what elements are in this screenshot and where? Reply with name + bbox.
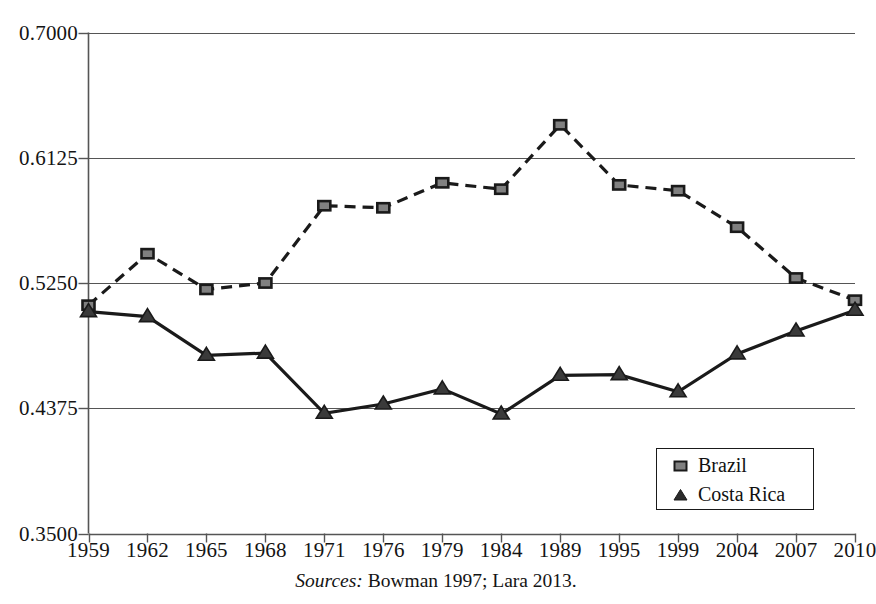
x-tick-label: 1995 [598,538,641,563]
x-tick-label: 1968 [244,538,287,563]
data-point-triangle [257,345,273,358]
x-tick-label: 1979 [421,538,464,563]
data-point-square [731,223,743,232]
y-tick-label: 0.7000 [19,20,78,45]
source-text: Bowman 1997; Lara 2013. [368,570,577,591]
x-tick-label: 2010 [834,538,876,563]
data-point-square [318,201,330,210]
data-point-triangle [434,381,450,394]
y-axis-tick-labels: 0.70000.61250.52500.43750.3500 [0,0,78,604]
x-tick-label: 2007 [775,538,818,563]
data-point-square [495,185,507,194]
data-point-square [790,273,802,282]
data-point-square [554,120,566,129]
legend-label-brazil: Brazil [698,454,747,477]
data-point-square [613,180,625,189]
legend-label-costa-rica: Costa Rica [698,483,785,506]
square-marker-icon [669,457,691,474]
x-tick-label: 1989 [539,538,582,563]
x-tick-label: 2004 [716,538,759,563]
y-tick-label: 0.5250 [19,271,78,296]
data-point-square [377,203,389,212]
data-point-square [142,249,154,258]
data-point-square [200,285,212,294]
series-line-brazil [89,125,856,305]
data-series-layer [81,120,864,419]
chart-legend: Brazil Costa Rica [656,448,814,510]
y-tick-label: 0.4375 [19,396,78,421]
x-tick-label: 1965 [185,538,228,563]
triangle-marker-icon [669,486,691,503]
legend-item-brazil: Brazil [657,451,813,480]
x-tick-label: 1976 [362,538,405,563]
x-tick-label: 1959 [67,538,110,563]
source-label: Sources: [295,570,363,591]
legend-item-costa-rica: Costa Rica [657,480,813,509]
series-line-costa-rica [89,310,856,414]
x-tick-label: 1971 [303,538,346,563]
source-note: Sources: Bowman 1997; Lara 2013. [0,570,872,592]
data-point-square [259,278,271,287]
data-point-square [672,186,684,195]
y-tick-label: 0.6125 [19,145,78,170]
x-tick-label: 1984 [480,538,523,563]
x-tick-label: 1962 [126,538,169,563]
data-point-square [436,178,448,187]
x-tick-label: 1999 [657,538,700,563]
